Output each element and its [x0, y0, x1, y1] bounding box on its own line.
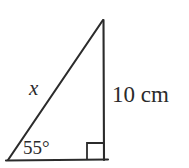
vertical-side-line [104, 20, 105, 160]
vertical-side-label: 10 cm [112, 83, 169, 106]
hypotenuse-label: x [29, 78, 38, 99]
figure-container: x 55° 10 cm [0, 0, 189, 168]
angle-label: 55° [23, 138, 50, 157]
right-angle-marker-icon [87, 143, 104, 160]
base-line [6, 160, 108, 161]
